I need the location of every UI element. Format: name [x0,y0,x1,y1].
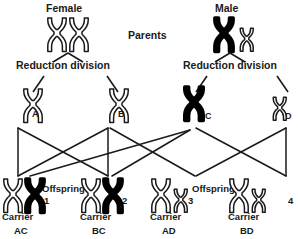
offspring-number-3: 3 [188,196,193,206]
offspring-number-1: 1 [44,196,49,206]
offspring-genotype-1: AC [14,226,28,236]
parent-male-chromosome-2 [240,28,253,51]
offspring-status-1: Carrier [2,212,33,222]
fertilization-lines [18,128,286,176]
parent-female-chromosome-1 [48,18,66,52]
label-reduction-division-left: Reduction division [16,60,110,71]
meiosis-split-male [196,76,288,92]
label-offspring-left: Offspring [42,184,85,194]
gamete-label-d: D [285,112,292,121]
offspring-genotype-2: BC [92,226,106,236]
offspring-number-2: 2 [122,196,127,206]
offspring-3-chromosome-large [152,179,170,213]
offspring-status-4: Carrier [228,212,259,222]
label-reduction-division-right: Reduction division [183,60,277,71]
offspring-2-chromosome-black [104,179,122,213]
label-offspring-right: Offspring [192,184,235,194]
offspring-4-chromosome-small [252,189,265,212]
meiosis-split-female [33,76,118,92]
offspring-1-chromosome-white [4,179,22,213]
label-parents: Parents [128,30,167,41]
gamete-chromosome-c [185,87,203,121]
label-female: Female [46,3,82,14]
label-male: Male [215,3,238,14]
parent-female-chromosome-2 [70,18,88,52]
parent-male-chromosome-1 [215,18,233,52]
offspring-status-2: Carrier [80,212,111,222]
offspring-genotype-4: BD [240,226,254,236]
gamete-label-b: B [118,110,125,119]
offspring-3-chromosome-small [174,189,187,212]
offspring-status-3: Carrier [150,212,181,222]
inheritance-diagram: Female Male Parents Reduction division R… [0,0,298,239]
offspring-genotype-3: AD [162,226,176,236]
gamete-label-c: C [205,112,212,121]
offspring-number-4: 4 [288,196,293,206]
gamete-label-a: A [32,110,39,119]
